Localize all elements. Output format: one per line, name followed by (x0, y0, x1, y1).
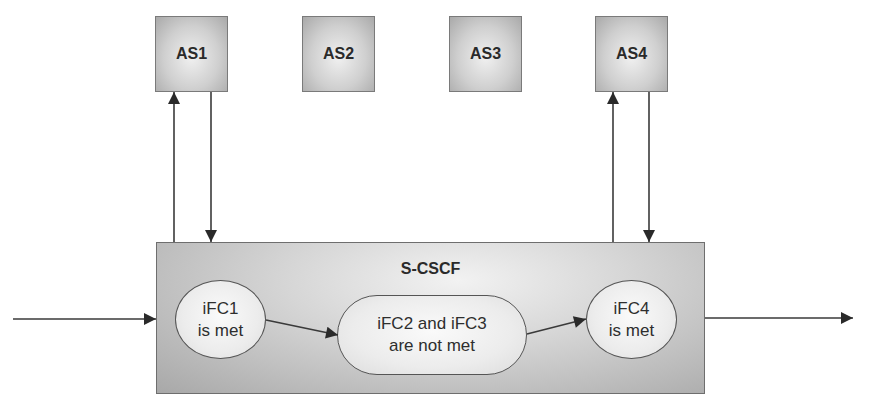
arrows-layer (0, 0, 874, 411)
ifc23-to-ifc4-arrow (527, 319, 586, 334)
ifc1-to-ifc23-arrow (266, 320, 338, 335)
